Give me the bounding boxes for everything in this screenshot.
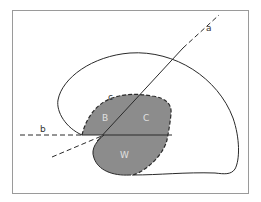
label-c: c bbox=[108, 92, 113, 102]
label-region-B: B bbox=[102, 113, 108, 123]
diagram-canvas: a b c B C W bbox=[0, 0, 261, 202]
label-a: a bbox=[206, 23, 212, 33]
label-b: b bbox=[40, 124, 46, 134]
label-region-C: C bbox=[143, 113, 149, 123]
label-region-W: W bbox=[120, 150, 129, 160]
